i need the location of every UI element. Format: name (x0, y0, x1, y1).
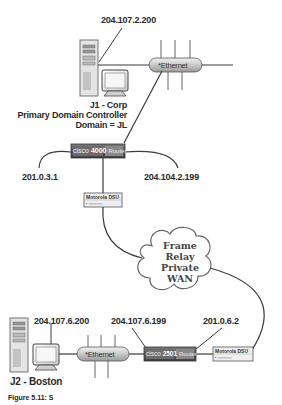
figure-caption: Figure 5.11: S (8, 394, 54, 401)
dsu-2-indicators: ▪ ▫▫▫▫▫▫▫▫▫▫ (215, 355, 232, 360)
j1-ip-leader (99, 28, 122, 62)
router-1-label: cisco 4000 Router (73, 146, 126, 156)
j2-site-name: J2 - Boston (10, 376, 62, 387)
dsu-1-indicators: ▪ ▫▫▫▫▫▫▫▫▫▫ (86, 201, 103, 206)
wan-line-2: Relay (150, 251, 210, 262)
dsu-2-label: Motorola DSU (215, 348, 248, 354)
router-2-label: cisco 2501 Router (146, 349, 197, 359)
wan-line-3: Private (150, 262, 210, 273)
j1-server-tower-icon (80, 40, 98, 96)
dsu-1-label: Motorola DSU (86, 194, 119, 200)
router-2-suffix: Router (179, 351, 197, 357)
wan-line-4: WAN (150, 273, 210, 284)
network-diagram-canvas (0, 0, 282, 405)
j1-site-name: J1 - Corp (90, 100, 127, 110)
router-2-lan-ip: 204.107.6.199 (111, 316, 166, 326)
j1-domain: Domain = JL (75, 120, 127, 130)
router-2-wan-ip: 201.0.6.2 (203, 316, 239, 326)
j1-role: Primary Domain Controller (17, 110, 127, 120)
ethernet-1-label: *Ethernet (158, 61, 187, 70)
router-2-brand: cisco (146, 350, 161, 357)
router-1-model: 4000 (91, 147, 107, 154)
router-1-left-ip: 201.0.3.1 (22, 172, 58, 182)
router-1-brand: cisco (73, 147, 89, 154)
j2-server-tower-icon (10, 318, 28, 372)
wan-line-1: Frame (150, 240, 210, 251)
router-1-suffix: Router (108, 148, 126, 154)
router-1-right-ip: 204.104.2.199 (144, 172, 199, 182)
j2-server-ip: 204.107.6.200 (34, 316, 89, 326)
ethernet-2-label: *Ethernet (85, 350, 114, 359)
router-2-model: 2501 (163, 350, 177, 357)
j1-monitor-icon (102, 70, 128, 96)
wan-cloud-label: Frame Relay Private WAN (150, 240, 210, 284)
j1-server-ip: 204.107.2.200 (101, 15, 156, 25)
j2-monitor-icon (33, 344, 59, 370)
